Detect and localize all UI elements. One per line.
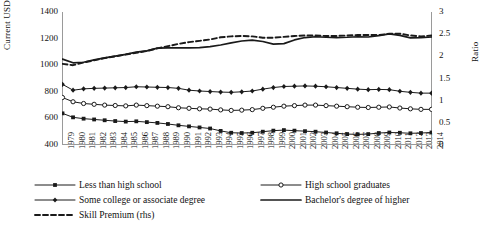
series-0 — [62, 111, 432, 136]
y-tick-right-3: 3 — [439, 6, 463, 16]
series-1 — [62, 95, 432, 112]
y-tick-right-2: 2 — [439, 50, 463, 60]
y-axis-left-title: Current USD — [2, 0, 12, 50]
series-3 — [63, 34, 432, 63]
chart-legend: Less than high schoolHigh school graduat… — [34, 180, 484, 230]
series-2 — [62, 82, 432, 96]
legend-label-2: Some college or associate degree — [79, 195, 205, 205]
legend-item-2[interactable]: Some college or associate degree — [34, 195, 205, 205]
y-tick-left-1400: 1400 — [28, 6, 58, 16]
chart-container: Current USD Ratio 140012001000800600400 … — [0, 0, 492, 233]
y-axis-right-title: Ratio — [470, 42, 480, 63]
x-tick-2014: 2014 — [435, 132, 445, 149]
legend-item-3[interactable]: Bachelor's degree of higher — [260, 195, 409, 205]
y-tick-right-2.5: 2.5 — [439, 28, 463, 38]
legend-marker-4 — [34, 210, 76, 220]
series-canvas — [62, 12, 432, 145]
legend-marker-3 — [260, 195, 302, 205]
legend-label-1: High school graduates — [305, 180, 390, 190]
y-tick-left-1000: 1000 — [28, 59, 58, 69]
legend-item-1[interactable]: High school graduates — [260, 180, 390, 190]
legend-label-4: Skill Premium (rhs) — [79, 210, 154, 220]
legend-marker-2 — [34, 195, 76, 205]
legend-marker-0 — [34, 180, 76, 190]
legend-label-0: Less than high school — [79, 180, 162, 190]
plot-area — [62, 12, 432, 145]
legend-item-0[interactable]: Less than high school — [34, 180, 162, 190]
y-tick-left-1200: 1200 — [28, 33, 58, 43]
legend-item-4[interactable]: Skill Premium (rhs) — [34, 210, 154, 220]
y-tick-right-1.5: 1.5 — [439, 73, 463, 83]
y-tick-left-600: 600 — [28, 112, 58, 122]
legend-label-3: Bachelor's degree of higher — [305, 195, 409, 205]
y-tick-right-0.5: 0.5 — [439, 117, 463, 127]
y-tick-right-1: 1 — [439, 95, 463, 105]
legend-marker-1 — [260, 180, 302, 190]
series-4 — [63, 34, 432, 65]
y-tick-left-400: 400 — [28, 139, 58, 149]
y-tick-left-800: 800 — [28, 86, 58, 96]
